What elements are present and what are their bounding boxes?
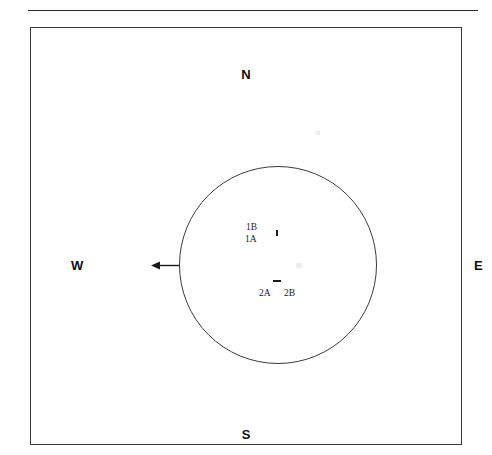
outer-frame-rectangle: N S W E 1B 1A 2A 2B: [30, 27, 462, 445]
compass-label-east: E: [474, 259, 483, 272]
figure-canvas: N S W E 1B 1A 2A 2B: [0, 0, 492, 455]
top-horizontal-rule: [28, 10, 478, 11]
point-label-1b: 1B: [246, 222, 257, 233]
compass-label-south: S: [31, 428, 461, 441]
faint-speck-center: [296, 263, 302, 268]
compass-label-north: N: [31, 68, 461, 81]
feature-mark-1: [276, 230, 278, 236]
central-circle: [179, 166, 377, 364]
point-label-2b: 2B: [284, 288, 295, 299]
compass-label-west: W: [71, 259, 83, 272]
feature-mark-2: [273, 280, 281, 282]
faint-speck-upper: [315, 131, 320, 135]
west-direction-arrow-icon: [149, 258, 181, 273]
point-label-1a: 1A: [245, 234, 257, 245]
point-label-2a: 2A: [259, 288, 271, 299]
